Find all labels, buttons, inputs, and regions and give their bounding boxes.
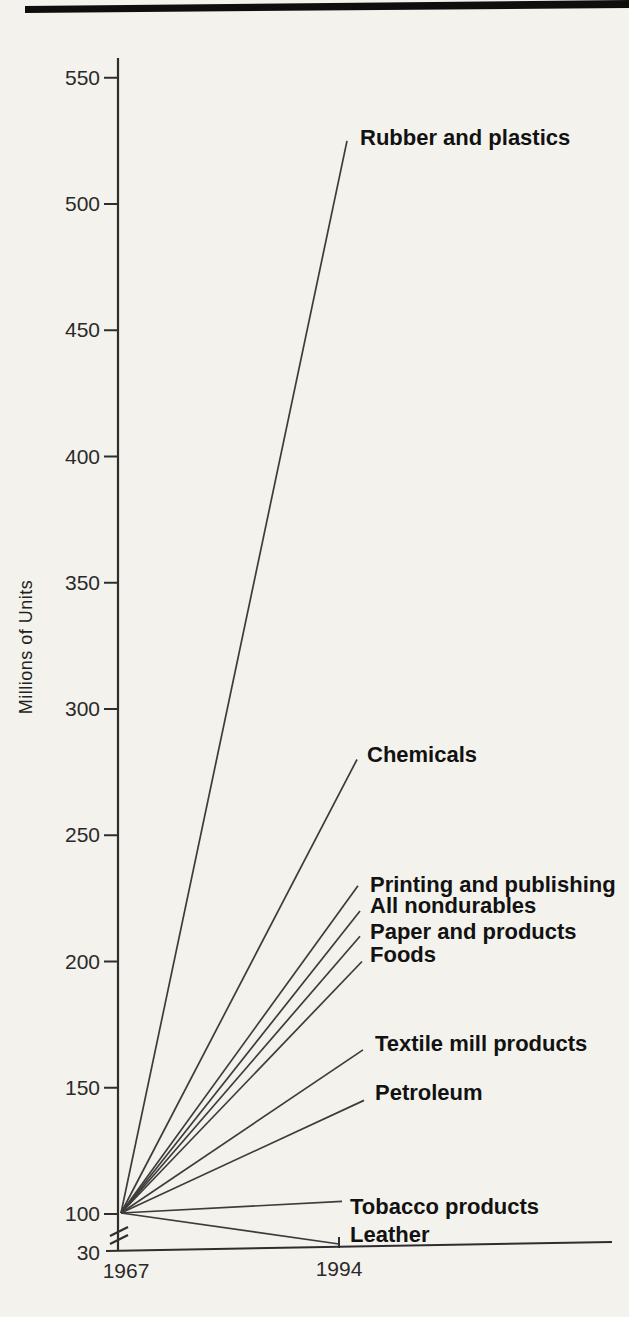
series-label: Foods	[370, 942, 436, 967]
scanned-page: 55050045040035030025020015010030 1967 19…	[0, 0, 629, 1317]
y-tick-label: 100	[65, 1202, 100, 1225]
series-line	[121, 886, 358, 1213]
series-label: Petroleum	[375, 1080, 483, 1105]
y-axis-title: Millions of Units	[16, 580, 36, 715]
x-tick-label-1967: 1967	[103, 1259, 150, 1282]
slope-chart: 55050045040035030025020015010030 1967 19…	[0, 0, 629, 1317]
x-tick-label-1994: 1994	[316, 1257, 363, 1280]
series-label: Textile mill products	[375, 1031, 587, 1056]
series-label: Paper and products	[370, 919, 577, 944]
series-line	[121, 1100, 364, 1213]
y-tick-label: 30	[77, 1241, 100, 1264]
y-tick-label: 150	[65, 1076, 100, 1099]
series-label: Leather	[350, 1222, 430, 1247]
axes: 55050045040035030025020015010030 1967 19…	[16, 58, 612, 1282]
series-line	[121, 1213, 339, 1244]
y-tick-label: 250	[65, 823, 100, 846]
series-label: Chemicals	[367, 742, 477, 767]
y-tick-label: 400	[65, 445, 100, 468]
series-line	[121, 936, 360, 1213]
y-axis-ticks: 55050045040035030025020015010030	[65, 66, 118, 1264]
series-label: Tobacco products	[350, 1194, 539, 1219]
y-tick-label: 500	[65, 192, 100, 215]
series-label: All nondurables	[370, 893, 536, 918]
series-line	[121, 911, 360, 1213]
y-tick-label: 350	[65, 571, 100, 594]
series-line	[121, 962, 362, 1214]
series-line	[121, 1050, 363, 1213]
series-label: Rubber and plastics	[360, 125, 570, 150]
series-line	[121, 141, 347, 1213]
y-tick-label: 550	[65, 66, 100, 89]
y-tick-label: 450	[65, 318, 100, 341]
series-line	[121, 760, 357, 1214]
series-line	[121, 1201, 342, 1213]
y-tick-label: 300	[65, 697, 100, 720]
y-tick-label: 200	[65, 950, 100, 973]
series-lines: Rubber and plasticsChemicalsPrinting and…	[121, 125, 616, 1247]
top-rule	[25, 0, 629, 13]
